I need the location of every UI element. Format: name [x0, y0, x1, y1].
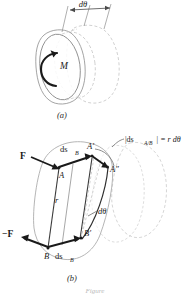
mechanics-figure-svg: dθ M (a) F	[0, 0, 189, 294]
ds-b-upper-label-sub: B	[75, 150, 79, 156]
force-minus-f-label: −F	[2, 229, 13, 239]
panel-a-dimension-arrow	[70, 6, 110, 13]
node-a-double-prime-dot	[106, 166, 109, 169]
relative-displacement-head: |ds	[125, 135, 134, 144]
point-a-double-prime-label: A″	[109, 164, 119, 174]
panel-b-caption: (b)	[67, 273, 77, 283]
panel-a-moment-label: M	[59, 61, 69, 71]
panel-b-dtheta-label: dθ	[98, 206, 106, 216]
panel-a-dim-ext-left	[62, 6, 68, 32]
ds-b-lower-label-sub: B	[70, 257, 74, 263]
ds-b-lower-label-main: ds	[55, 251, 63, 261]
figure-root: dθ M (a) F	[0, 0, 189, 294]
node-a-prime-dot	[91, 155, 94, 158]
point-a-label: A	[58, 170, 65, 180]
relative-displacement-equation: |ds A/B | = r dθ	[125, 135, 181, 146]
point-b-prime-label: B′	[84, 228, 91, 238]
point-a-prime-label: A′	[86, 141, 94, 151]
panel-a-caption: (a)	[57, 110, 67, 120]
point-b-label: B	[44, 251, 49, 261]
ds-b-upper-label-main: ds	[60, 144, 68, 154]
bottom-cut-caption: Figure	[85, 287, 105, 294]
panel-a-dtheta-label: dθ	[79, 0, 87, 9]
panel-a-group: dθ M (a)	[36, 0, 120, 120]
panel-b-displaced-body-outline	[112, 142, 167, 237]
relative-displacement-sub: A/B	[143, 140, 153, 146]
node-a-dot	[58, 166, 61, 169]
force-f-label: F	[20, 151, 26, 161]
relative-displacement-tail: | = r dθ	[156, 135, 181, 144]
panel-b-group: F ds B A A′ A″ B B′ r dθ	[2, 135, 181, 294]
